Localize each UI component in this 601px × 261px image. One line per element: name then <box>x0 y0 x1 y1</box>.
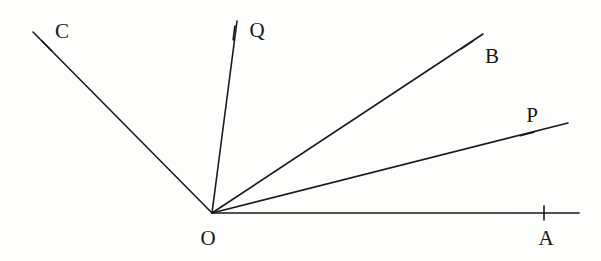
rays-canvas <box>0 0 601 261</box>
ray-q <box>212 21 237 213</box>
geometry-diagram: CQBPAO <box>0 0 601 261</box>
tick-mark-c <box>42 41 52 51</box>
point-label-a: A <box>538 228 553 249</box>
ray-b <box>212 34 483 213</box>
ray-p <box>212 123 568 213</box>
tick-mark-b <box>461 41 473 49</box>
ray-c <box>33 32 212 213</box>
point-label-b: B <box>485 46 499 67</box>
ticks-group <box>42 26 544 220</box>
point-label-c: C <box>55 21 69 42</box>
point-label-q: Q <box>249 20 264 41</box>
point-label-p: P <box>526 105 538 126</box>
point-label-o: O <box>200 228 215 249</box>
